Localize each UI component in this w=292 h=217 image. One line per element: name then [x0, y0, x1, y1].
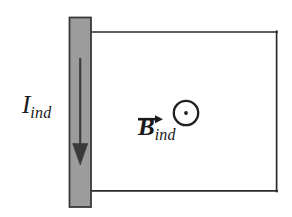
current-label-subscript: ind: [30, 104, 51, 121]
magnetic-field-label: B ind: [138, 114, 176, 143]
field-label-base: B: [138, 114, 155, 139]
physics-diagram: Iind B ind: [0, 0, 292, 217]
field-symbol-dot: [184, 111, 188, 115]
field-label-subscript: ind: [155, 126, 176, 143]
circuit-loop: [88, 31, 277, 191]
vector-b-wrapper: B: [138, 114, 155, 139]
current-label: Iind: [22, 92, 51, 121]
field-out-of-page-symbol: [174, 101, 198, 125]
